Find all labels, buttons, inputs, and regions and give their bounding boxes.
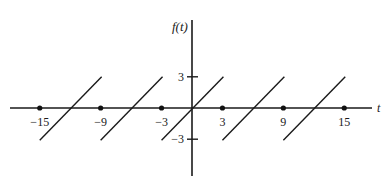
axes — [10, 20, 372, 176]
x-tick-label: 3 — [219, 115, 225, 129]
period-dot — [281, 105, 286, 110]
sawtooth-chart: 3−3 −15−9−33915 f(t) t — [0, 0, 392, 186]
y-axis-label: f(t) — [172, 19, 188, 34]
period-dot — [159, 105, 164, 110]
y-tick-label: −3 — [171, 132, 184, 146]
x-tick-label: −3 — [155, 115, 168, 129]
period-dot — [342, 105, 347, 110]
period-dot — [37, 105, 42, 110]
period-dot — [220, 105, 225, 110]
x-axis-label: t — [377, 101, 381, 115]
y-tick-label: 3 — [178, 70, 184, 84]
x-tick-label: −15 — [30, 115, 49, 129]
x-ticks: −15−9−33915 — [30, 115, 350, 129]
x-tick-label: 15 — [338, 115, 350, 129]
x-tick-label: −9 — [94, 115, 107, 129]
period-dot — [98, 105, 103, 110]
x-tick-label: 9 — [280, 115, 286, 129]
